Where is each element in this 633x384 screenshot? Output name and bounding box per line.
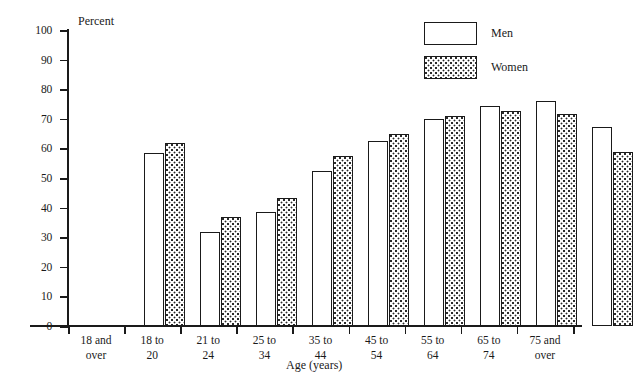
bar-men-5	[424, 119, 444, 326]
y-axis-tick-label: 50	[0, 172, 52, 184]
y-axis-tick-label: 70	[0, 113, 52, 125]
x-axis-label: 18 to 20	[124, 333, 180, 363]
bar-women-1	[221, 217, 241, 326]
x-axis-tick	[573, 325, 575, 334]
y-axis-tick	[60, 89, 68, 91]
x-axis-label: 75 and over	[517, 333, 573, 363]
bar-men-2	[256, 212, 276, 326]
bar-men-1	[200, 232, 220, 326]
bar-women-0	[165, 143, 185, 326]
bar-women-3	[333, 156, 353, 326]
y-axis-tick-label: 90	[0, 54, 52, 66]
legend-swatch-men	[424, 22, 477, 45]
y-axis-tick-label: 80	[0, 83, 52, 95]
x-axis-label: 45 to 54	[349, 333, 405, 363]
x-axis-label: 65 to 74	[461, 333, 517, 363]
bar-women-2	[277, 198, 297, 326]
y-axis-tick-label: 30	[0, 231, 52, 243]
legend: MenWomen	[424, 22, 528, 90]
y-axis-tick-label: 60	[0, 142, 52, 154]
bar-men-3	[312, 171, 332, 326]
x-axis-label: 21 to 24	[180, 333, 236, 363]
bar-women-8	[613, 152, 633, 326]
bar-men-6	[480, 106, 500, 326]
y-axis-tick-label: 100	[0, 24, 52, 36]
x-axis-label: 25 to 34	[236, 333, 292, 363]
y-axis-tick	[60, 326, 68, 328]
bar-men-8	[592, 127, 612, 327]
bar-women-6	[501, 111, 521, 326]
y-axis-title: Percent	[78, 14, 114, 29]
y-axis-tick-label: 10	[0, 290, 52, 302]
y-axis-tick	[60, 237, 68, 239]
y-axis-tick	[60, 60, 68, 62]
legend-label: Women	[491, 60, 528, 75]
bar-women-7	[557, 114, 577, 326]
legend-item-women: Women	[424, 56, 528, 79]
legend-swatch-women	[424, 56, 477, 79]
y-axis-tick	[60, 30, 68, 32]
legend-label: Men	[491, 26, 513, 41]
y-axis-tick	[60, 296, 68, 298]
x-axis-label: 18 and over	[68, 333, 124, 363]
y-axis-tick	[60, 178, 68, 180]
bar-men-4	[368, 141, 388, 326]
y-axis-tick-label: 0	[0, 320, 52, 332]
bar-women-5	[445, 116, 465, 326]
y-axis-tick	[60, 119, 68, 121]
y-axis-tick	[60, 267, 68, 269]
bar-men-7	[536, 101, 556, 326]
y-axis-tick-label: 40	[0, 202, 52, 214]
y-axis-tick	[60, 208, 68, 210]
bar-women-4	[389, 134, 409, 326]
x-axis-label: 55 to 64	[405, 333, 461, 363]
legend-item-men: Men	[424, 22, 528, 45]
bar-men-0	[144, 153, 164, 326]
y-axis-tick	[60, 148, 68, 150]
x-axis-title: Age (years)	[286, 358, 342, 373]
y-axis-tick-label: 20	[0, 261, 52, 273]
